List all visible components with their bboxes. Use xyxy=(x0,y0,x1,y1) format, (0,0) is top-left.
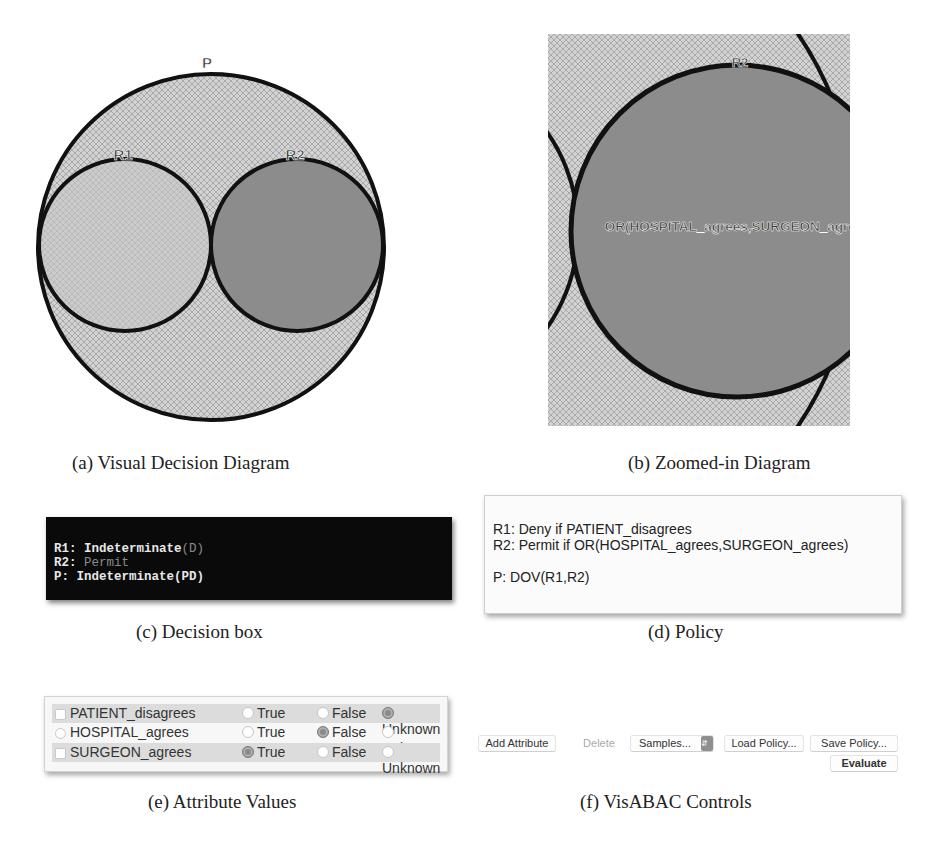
radio-icon xyxy=(382,746,394,758)
delete-button[interactable]: Delete xyxy=(578,735,620,752)
policy-line-r2: R2: Permit if OR(HOSPITAL_agrees,SURGEON… xyxy=(493,537,848,553)
attribute-checkbox[interactable] xyxy=(55,728,66,739)
radio-icon xyxy=(382,726,394,738)
attribute-name: HOSPITAL_agrees xyxy=(70,724,189,740)
rule2-circle[interactable] xyxy=(211,159,383,331)
decision-box: R1: Indeterminate(D) R2: Permit P: Indet… xyxy=(46,517,452,600)
radio-icon xyxy=(317,707,329,719)
policy-line-p: P: DOV(R1,R2) xyxy=(493,569,848,585)
radio-icon xyxy=(242,707,254,719)
samples-dropdown[interactable]: Samples... ⇵ xyxy=(630,735,714,752)
radio-true[interactable]: True xyxy=(242,744,285,760)
radio-true[interactable]: True xyxy=(242,724,285,740)
radio-true[interactable]: True xyxy=(242,705,285,721)
attribute-row: SURGEON_agrees True False Unknown xyxy=(52,743,440,762)
save-policy-button[interactable]: Save Policy... xyxy=(810,735,898,752)
attribute-name: PATIENT_disagrees xyxy=(70,705,196,721)
evaluate-button[interactable]: Evaluate xyxy=(830,755,898,772)
rule2-label-zoomed: R2 xyxy=(732,55,749,70)
policy-editor[interactable]: R1: Deny if PATIENT_disagrees R2: Permit… xyxy=(484,495,902,614)
decision-line-p: P: Indeterminate(PD) xyxy=(54,570,204,584)
caption-c: (c) Decision box xyxy=(136,621,263,643)
attribute-row: PATIENT_disagrees True False Unknown xyxy=(52,704,440,723)
decision-line-r1: R1: Indeterminate(D) xyxy=(54,542,204,556)
radio-false[interactable]: False xyxy=(317,724,366,740)
policy-line-r1: R1: Deny if PATIENT_disagrees xyxy=(493,521,848,537)
radio-selected-icon xyxy=(382,707,394,719)
policy-label: P xyxy=(202,54,212,71)
visual-decision-diagram[interactable]: P R1 R2 xyxy=(0,0,440,440)
caption-d: (d) Policy xyxy=(648,621,723,643)
radio-false[interactable]: False xyxy=(317,744,366,760)
radio-icon xyxy=(317,746,329,758)
policy-line-blank xyxy=(493,553,848,569)
attribute-checkbox[interactable] xyxy=(55,709,66,720)
rule2-label: R2 xyxy=(285,146,304,163)
rule1-circle[interactable] xyxy=(39,159,211,331)
caption-b: (b) Zoomed-in Diagram xyxy=(628,452,811,474)
attribute-row: HOSPITAL_agrees True False Unknown xyxy=(52,723,440,742)
radio-selected-icon xyxy=(317,726,329,738)
decision-line-r2: R2: Permit xyxy=(54,556,204,570)
caption-e: (e) Attribute Values xyxy=(148,791,296,813)
caption-f: (f) VisABAC Controls xyxy=(580,791,752,813)
attribute-values-table: PATIENT_disagrees True False Unknown HOS… xyxy=(44,696,448,772)
rule2-condition-label: OR(HOSPITAL_agrees,SURGEON_agrees) xyxy=(605,219,850,234)
radio-false[interactable]: False xyxy=(317,705,366,721)
attribute-checkbox[interactable] xyxy=(55,748,66,759)
add-attribute-button[interactable]: Add Attribute xyxy=(478,735,556,752)
rule1-label: R1 xyxy=(113,146,132,163)
radio-icon xyxy=(242,726,254,738)
load-policy-button[interactable]: Load Policy... xyxy=(724,735,804,752)
radio-selected-icon xyxy=(242,746,254,758)
zoomed-diagram[interactable]: R2 OR(HOSPITAL_agrees,SURGEON_agrees) xyxy=(548,34,850,426)
caption-a: (a) Visual Decision Diagram xyxy=(72,452,289,474)
samples-label: Samples... xyxy=(631,737,691,749)
radio-unknown[interactable]: Unknown xyxy=(382,744,440,776)
dropdown-stepper-icon: ⇵ xyxy=(701,736,713,751)
attribute-name: SURGEON_agrees xyxy=(70,744,191,760)
